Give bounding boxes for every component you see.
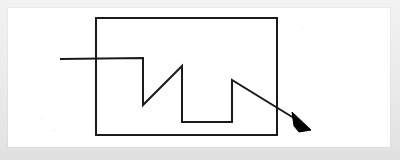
screenshot-root: Signal path crossing a rectangular bound… (0, 0, 400, 160)
document-page (8, 8, 390, 147)
arrowhead-icon (292, 112, 311, 132)
diagram-figure (8, 8, 390, 147)
boundary-rectangle (96, 18, 277, 135)
